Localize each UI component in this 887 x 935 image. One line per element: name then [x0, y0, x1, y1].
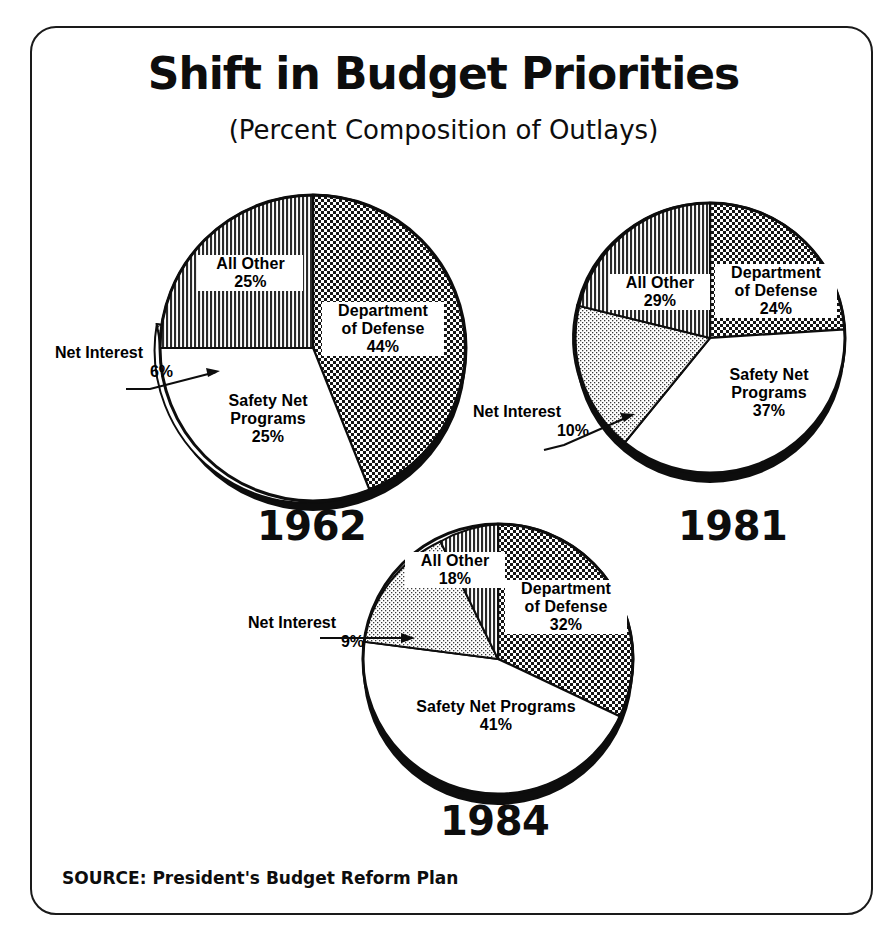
- figure-canvas: Shift in Budget Priorities (Percent Comp…: [0, 0, 887, 935]
- pie-1984-label-all-other: All Other 18%: [405, 552, 505, 588]
- source-note: SOURCE: President's Budget Reform Plan: [62, 868, 458, 888]
- pie-chart-1984: All Other 18% Department of Defense 32% …: [357, 518, 647, 808]
- pie-1981-label-safety-net: Safety Net Programs 37%: [710, 366, 828, 420]
- leader-line-1984: [318, 628, 430, 650]
- year-label-1981: 1981: [678, 503, 787, 549]
- year-label-1984: 1984: [440, 798, 549, 844]
- pie-1984-label-dod: Department of Defense 32%: [505, 580, 627, 634]
- pie-1981-label-dod: Department of Defense 24%: [715, 264, 837, 318]
- page-title: Shift in Budget Priorities: [0, 48, 887, 99]
- year-label-1962: 1962: [257, 503, 366, 549]
- leader-line-1962: [124, 360, 244, 392]
- pie-1984-label-safety-net: Safety Net Programs 41%: [391, 698, 601, 734]
- pie-1962-label-all-other: All Other 25%: [198, 255, 303, 291]
- pie-chart-1962: All Other 25% Department of Defense 44% …: [150, 190, 480, 515]
- pie-1962-label-safety-net: Safety Net Programs 25%: [212, 392, 324, 446]
- leader-line-1981: [542, 410, 664, 454]
- pie-1962-label-dod: Department of Defense 44%: [322, 302, 444, 356]
- pie-1981-label-all-other: All Other 29%: [610, 274, 710, 310]
- page-subtitle: (Percent Composition of Outlays): [0, 115, 887, 145]
